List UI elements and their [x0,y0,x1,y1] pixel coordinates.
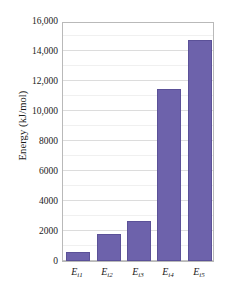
bar [188,40,212,261]
x-tick-label: Ei3 [123,266,153,279]
plot-area [62,22,214,262]
bar [157,89,181,262]
bar [127,221,151,262]
x-tick-label: Ei2 [92,266,122,279]
y-axis-tick-labels: 0200040006000800010,00012,00014,00016,00… [12,22,58,262]
x-axis-tick-labels: Ei1Ei2Ei3Ei4Ei5 [62,266,214,286]
x-tick-label: Ei1 [62,266,92,279]
bar-series [63,23,213,261]
x-tick-label: Ei4 [153,266,183,279]
y-tick-label: 10,000 [12,107,58,117]
x-tick-label: Ei5 [184,266,214,279]
bar [66,252,90,261]
y-tick-label: 6000 [12,167,58,177]
y-tick-label: 2000 [12,227,58,237]
ionization-energy-bar-chart: Energy (kJ/mol) 0200040006000800010,0001… [0,0,231,297]
y-tick-label: 8000 [12,137,58,147]
y-tick-label: 4000 [12,197,58,207]
y-tick-label: 16,000 [12,17,58,27]
y-tick-label: 14,000 [12,47,58,57]
y-tick-label: 12,000 [12,77,58,87]
bar [97,234,121,261]
y-tick-label: 0 [12,257,58,267]
